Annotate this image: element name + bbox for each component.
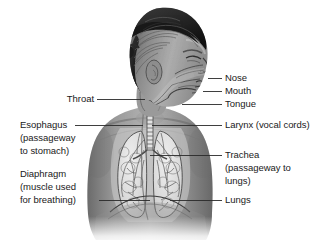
label-tongue: Tongue [225,98,256,111]
anatomy-diagram: Throat Esophagus (passageway to stomach)… [0,0,329,245]
label-trachea-line-1: Trachea [225,149,291,162]
label-throat-line-1: Throat [67,93,94,106]
label-trachea-line-3: lungs) [225,175,291,188]
label-tongue-line-1: Tongue [225,98,256,111]
label-trachea: Trachea (passageway to lungs) [225,149,291,187]
label-esophagus: Esophagus (passageway to stomach) [20,119,75,157]
label-trachea-line-2: (passageway to [225,162,291,175]
label-mouth-line-1: Mouth [225,85,251,98]
head-group [118,7,208,107]
label-lungs: Lungs [225,194,251,207]
label-lungs-line-1: Lungs [225,194,251,207]
label-larynx: Larynx (vocal cords) [225,119,310,132]
label-nose: Nose [225,72,247,85]
ear [146,60,162,84]
label-diaphragm-line-3: for breathing) [20,194,76,207]
label-nose-line-1: Nose [225,72,247,85]
label-esophagus-line-2: (passageway [20,132,75,145]
label-mouth: Mouth [225,85,251,98]
label-larynx-line-1: Larynx (vocal cords) [225,119,310,132]
label-throat: Throat [67,93,94,106]
label-esophagus-line-3: to stomach) [20,145,75,158]
label-diaphragm-line-1: Diaphragm [20,168,76,181]
label-diaphragm: Diaphragm (muscle used for breathing) [20,168,76,206]
label-esophagus-line-1: Esophagus [20,119,75,132]
label-diaphragm-line-2: (muscle used [20,181,76,194]
